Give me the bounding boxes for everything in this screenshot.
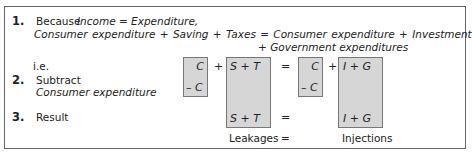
equals-result: =: [281, 111, 290, 124]
ig-top: I + G: [343, 60, 371, 73]
step1-equation: Income = Expenditure,: [77, 15, 198, 27]
c-bottom-left: – C: [186, 81, 203, 94]
equals-top: =: [281, 60, 290, 73]
consumer-box-left: C – C: [183, 57, 208, 97]
ie-label: i.e.: [33, 60, 49, 72]
c-top-right: C: [311, 60, 319, 73]
step3-label: Result: [36, 111, 68, 123]
step2-label: Subtract: [36, 74, 81, 86]
injections-box: I + G I + G: [338, 57, 383, 128]
st-bottom: S + T: [230, 112, 260, 125]
step1-line3: + Government expenditures: [258, 41, 408, 53]
leakages-label: Leakages: [229, 132, 279, 144]
c-top-left: C: [196, 60, 204, 73]
step2-number: 2.: [12, 73, 24, 87]
st-top: S + T: [230, 60, 260, 73]
step1-line2: Consumer expenditure + Saving + Taxes = …: [34, 28, 472, 40]
step1-prefix: Because: [36, 15, 80, 27]
equals-labels: =: [281, 132, 290, 144]
injections-label: Injections: [342, 132, 393, 144]
step3-number: 3.: [12, 110, 24, 124]
leakages-box: S + T S + T: [226, 57, 271, 128]
plus-right: +: [328, 60, 337, 73]
consumer-box-right: C – C: [298, 57, 323, 97]
ig-bottom: I + G: [343, 112, 371, 125]
plus-left: +: [214, 60, 223, 73]
step1-number: 1.: [12, 14, 24, 28]
step2-sublabel: Consumer expenditure: [36, 86, 156, 98]
c-bottom-right: – C: [301, 81, 318, 94]
